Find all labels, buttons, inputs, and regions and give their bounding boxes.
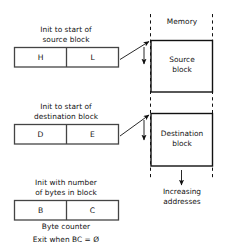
hl-caption-line2: source block — [6, 35, 126, 45]
memory-block-transfer-diagram: Memory Init to start of source block H L… — [0, 0, 225, 248]
de-cell-d: D — [14, 130, 67, 139]
bc-caption-line2: of bytes in block — [6, 188, 126, 198]
increasing-addresses-label: Increasing addresses — [150, 187, 214, 207]
de-caption-line2: destination block — [6, 112, 126, 122]
hl-to-source-pointer-arrow — [120, 42, 149, 60]
bc-cell-c: C — [66, 206, 119, 215]
exit-condition-label: Exit when BC = Ø — [6, 235, 126, 245]
destination-block-line2: block — [149, 139, 215, 149]
bc-caption-line1: Init with number — [6, 178, 126, 188]
de-caption-line1: Init to start of — [6, 102, 126, 112]
bc-caption: Init with number of bytes in block — [6, 178, 126, 197]
source-block-label: Source block — [151, 55, 213, 75]
increasing-addresses-line1: Increasing — [150, 187, 214, 197]
de-cell-e: E — [66, 130, 119, 139]
memory-rails — [151, 14, 213, 178]
bc-cell-b: B — [14, 206, 67, 215]
source-block-line1: Source — [151, 55, 213, 65]
increasing-addresses-line2: addresses — [150, 197, 214, 207]
source-block-line2: block — [151, 65, 213, 75]
destination-block-line1: Destination — [149, 129, 215, 139]
memory-title: Memory — [151, 17, 213, 27]
destination-block-label: Destination block — [149, 129, 215, 149]
hl-cell-h: H — [14, 53, 67, 62]
hl-caption: Init to start of source block — [6, 25, 126, 44]
hl-caption-line1: Init to start of — [6, 25, 126, 35]
hl-cell-l: L — [66, 53, 119, 62]
de-caption: Init to start of destination block — [6, 102, 126, 121]
byte-counter-label: Byte counter — [6, 222, 126, 232]
